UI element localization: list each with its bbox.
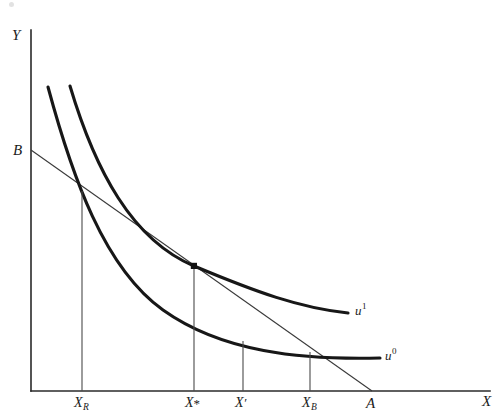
tangency-point (191, 263, 197, 269)
indifference-curve-u0 (48, 87, 380, 358)
x-tick-label-Xprime: X′ (235, 396, 246, 410)
x-tick-label-Xprime-base: X (235, 395, 244, 410)
x-tick-label-XB-subscript: B (311, 402, 317, 412)
curve-label-u0-base: u (385, 348, 392, 363)
x-tick-label-Xprime-mark: ′ (244, 395, 247, 410)
budget-endpoint-label-A: A (366, 396, 375, 411)
figure-canvas (0, 0, 503, 419)
budget-intercept-label-B: B (13, 143, 22, 158)
curve-label-u1-base: u (355, 303, 362, 318)
x-tick-label-XR-subscript: R (83, 402, 89, 412)
x-axis-label: X (482, 394, 491, 409)
scan-speck-artifact (9, 2, 14, 7)
economics-indifference-curve-figure: Y X B A u1 u0 XR X* X′ XB (0, 0, 503, 419)
x-tick-label-Xstar-asterisk: * (194, 396, 201, 411)
curve-label-u1: u1 (355, 304, 366, 317)
x-tick-label-XR-base: X (74, 395, 83, 410)
x-tick-label-XR: XR (74, 396, 88, 410)
curve-label-u1-superscript: 1 (362, 301, 367, 311)
curve-label-u0: u0 (385, 349, 396, 362)
x-tick-label-XB: XB (302, 396, 316, 410)
x-tick-label-Xstar-base: X (185, 395, 194, 410)
y-axis-label: Y (12, 28, 20, 43)
curve-label-u0-superscript: 0 (392, 346, 397, 356)
indifference-curve-u1 (70, 86, 348, 313)
x-tick-label-XB-base: X (302, 395, 311, 410)
x-tick-label-Xstar: X* (185, 396, 200, 410)
